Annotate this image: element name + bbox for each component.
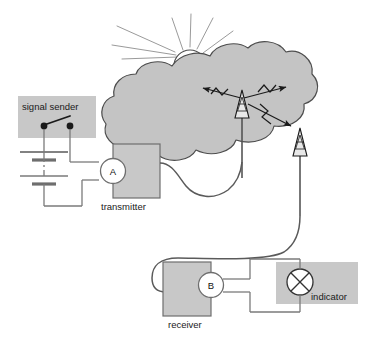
meter-b-label: B — [208, 280, 214, 291]
antenna-receive-icon — [293, 128, 307, 216]
indicator-lamp-icon — [287, 269, 313, 295]
meter-a-label: A — [110, 166, 117, 177]
signal-sender-label: signal sender — [22, 101, 79, 112]
transmitter-label: transmitter — [101, 201, 146, 212]
diagram-root: signal sender — [0, 0, 374, 339]
receiver-label: receiver — [168, 319, 202, 330]
meter-b[interactable]: B — [199, 273, 224, 298]
sender-circuit-wires — [20, 129, 99, 206]
battery-symbol — [20, 152, 68, 186]
radio-link-diagram: signal sender — [0, 0, 374, 339]
indicator-label: indicator — [311, 291, 347, 302]
meter-a[interactable]: A — [101, 159, 126, 184]
cable-transmitter-to-antenna — [160, 162, 242, 196]
cloud-shape — [102, 42, 318, 161]
